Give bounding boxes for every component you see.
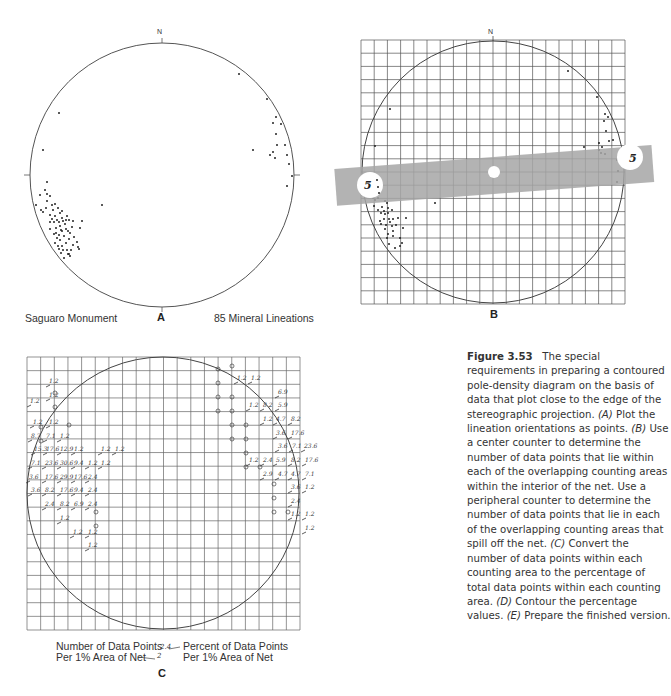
panel-letter-c: C — [158, 667, 166, 679]
figure-number: Figure 3.53 — [467, 351, 533, 362]
figure-caption: Figure 3.53 The special requirements in … — [467, 350, 671, 624]
